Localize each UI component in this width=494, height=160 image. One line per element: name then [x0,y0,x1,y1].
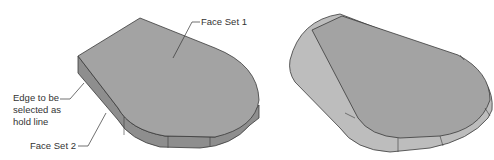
label-edge-line3: hold line [13,116,48,128]
face-set-1 [78,18,259,137]
label-face-set-1: Face Set 1 [201,16,247,28]
label-edge-line2: selected as [13,104,61,116]
right-model [290,14,493,152]
figure-canvas [0,0,494,160]
label-edge-line1: Edge to be [13,92,59,104]
left-model [60,18,259,148]
label-face-set-2: Face Set 2 [30,140,76,152]
